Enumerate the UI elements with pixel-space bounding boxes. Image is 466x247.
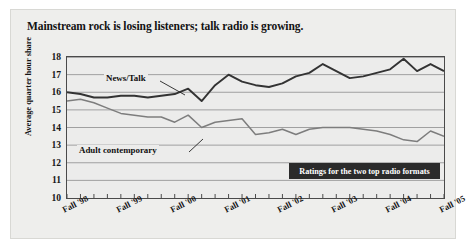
y-axis-tick-label: 17 bbox=[51, 68, 61, 79]
series-label-news-talk: News/Talk bbox=[104, 73, 148, 83]
y-axis-tick-label: 14 bbox=[51, 121, 61, 132]
y-axis-tick-label: 16 bbox=[51, 86, 61, 97]
y-axis-label: Average quarter hour share bbox=[24, 22, 33, 152]
plot-wrapper: 101112131415161718 Fall '98Fall '99Fall … bbox=[66, 56, 445, 199]
caption-badge: Ratings for the two top radio formats bbox=[289, 163, 440, 179]
y-axis-tick-label: 10 bbox=[51, 192, 61, 203]
series-label-adult-contemporary: Adult contemporary bbox=[77, 145, 159, 155]
y-axis-tick-label: 18 bbox=[51, 51, 61, 62]
y-axis-tick-label: 13 bbox=[51, 139, 61, 150]
y-axis-tick-label: 11 bbox=[52, 174, 61, 185]
annotation-leader-line bbox=[160, 81, 185, 95]
chart-title: Mainstream rock is losing listeners; tal… bbox=[27, 20, 303, 32]
series-line-adult-contemporary bbox=[67, 99, 444, 141]
y-axis-tick-label: 12 bbox=[51, 156, 61, 167]
chart-figure: Mainstream rock is losing listeners; tal… bbox=[11, 10, 455, 238]
caption-text: Ratings for the two top radio formats bbox=[299, 167, 429, 176]
y-axis-tick-label: 15 bbox=[51, 103, 61, 114]
